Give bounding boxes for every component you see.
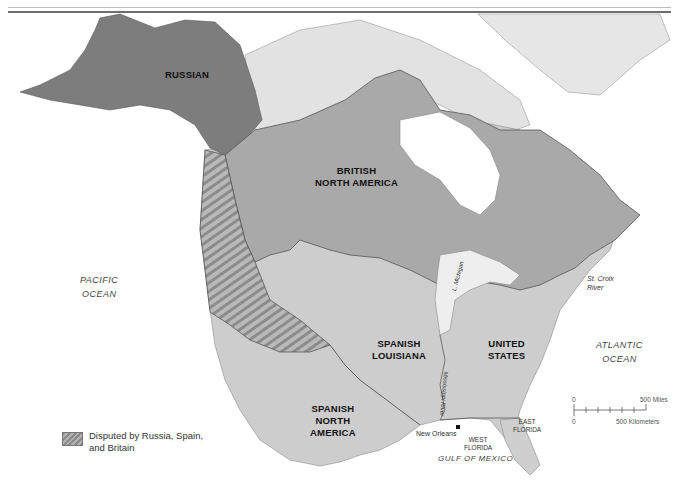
legend-line: and Britain <box>89 442 203 454</box>
label-line: STATES <box>488 350 525 362</box>
label-line: SPANISH <box>310 403 356 415</box>
label-spanish-north-america: SPANISH NORTH AMERICA <box>310 403 356 439</box>
label-line: AMERICA <box>310 427 356 439</box>
label-line: River <box>587 283 614 292</box>
label-russian: RUSSIAN <box>165 69 209 81</box>
label-spanish-louisiana: SPANISH LOUISIANA <box>372 338 426 362</box>
new-orleans-marker <box>456 425 460 429</box>
label-line: FLORIDA <box>513 426 541 434</box>
label-line: SPANISH <box>372 338 426 350</box>
label-line: WEST <box>464 436 492 444</box>
label-line: LOUISIANA <box>372 350 426 362</box>
russian-territory <box>20 14 262 155</box>
label-line: EAST <box>513 418 541 426</box>
legend: Disputed by Russia, Spain, and Britain <box>62 430 203 454</box>
label-line: BRITISH <box>315 165 398 177</box>
label-pacific-ocean: PACIFIC OCEAN <box>80 273 118 301</box>
label-west-florida: WEST FLORIDA <box>464 436 492 452</box>
greenland <box>478 14 670 95</box>
scale-miles: 500 Miles <box>640 396 668 403</box>
label-st-croix-river: St. Croix River <box>587 274 614 292</box>
scale-labels: 0 500 Miles 0 500 Kilometers <box>570 396 681 430</box>
label-atlantic-ocean: ATLANTIC OCEAN <box>596 338 643 366</box>
label-line: FLORIDA <box>464 444 492 452</box>
scale-zero-km: 0 <box>572 418 576 425</box>
label-line: OCEAN <box>596 352 643 366</box>
legend-text: Disputed by Russia, Spain, and Britain <box>89 430 203 454</box>
label-line: OCEAN <box>80 287 118 301</box>
label-line: St. Croix <box>587 274 614 283</box>
label-british-north-america: BRITISH NORTH AMERICA <box>315 165 398 189</box>
scale-km: 500 Kilometers <box>616 418 659 425</box>
label-line: UNITED <box>488 338 525 350</box>
label-new-orleans: New Orleans <box>416 430 456 438</box>
disputed-hatch-swatch-icon <box>62 432 83 446</box>
scale-zero-miles: 0 <box>572 396 576 403</box>
label-gulf-of-mexico: GULF OF MEXICO <box>438 452 513 466</box>
label-line: PACIFIC <box>80 273 118 287</box>
label-line: NORTH <box>310 415 356 427</box>
label-line: ATLANTIC <box>596 338 643 352</box>
legend-line: Disputed by Russia, Spain, <box>89 430 203 442</box>
label-east-florida: EAST FLORIDA <box>513 418 541 434</box>
label-united-states: UNITED STATES <box>488 338 525 362</box>
label-line: NORTH AMERICA <box>315 177 398 189</box>
